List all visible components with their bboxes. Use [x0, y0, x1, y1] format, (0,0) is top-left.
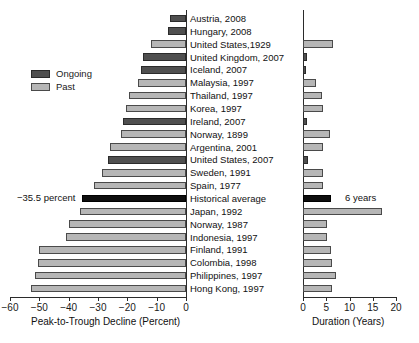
chart-figure: Austria, 2008Hungary, 2008United States,… — [0, 0, 419, 343]
figure-caption — [55, 333, 415, 343]
decline-bar — [138, 79, 186, 87]
duration-bar — [303, 285, 332, 293]
axis-tick — [396, 297, 397, 301]
duration-bar — [303, 169, 323, 177]
category-label: Iceland, 2007 — [190, 64, 247, 75]
duration-bar — [303, 182, 323, 190]
decline-bar — [168, 27, 186, 35]
axis-tick-label: −40 — [60, 302, 77, 313]
category-label: Thailand, 1997 — [190, 90, 253, 101]
axis-tick-label: 0 — [300, 302, 306, 313]
category-label: Hong Kong, 1997 — [190, 283, 264, 294]
decline-axis-title: Peak-to-Trough Decline (Percent) — [31, 316, 180, 328]
legend-item-past: Past — [31, 81, 92, 92]
duration-bar — [303, 92, 322, 100]
axis-tick — [186, 297, 187, 301]
legend-item-ongoing: Ongoing — [31, 68, 92, 79]
duration-bar — [303, 53, 307, 61]
axis-tick-label: −10 — [148, 302, 165, 313]
axis-tick — [303, 297, 304, 301]
axis-tick-label: −20 — [119, 302, 136, 313]
duration-bar — [303, 143, 323, 151]
category-label: Norway, 1987 — [190, 219, 248, 230]
decline-bar — [151, 40, 186, 48]
category-label: United Kingdom, 2007 — [190, 52, 284, 63]
decline-bar — [69, 220, 186, 228]
category-labels: Austria, 2008Hungary, 2008United States,… — [190, 12, 302, 295]
duration-bar — [303, 246, 331, 254]
axis-tick-label: 15 — [367, 302, 378, 313]
axis-tick-label: 20 — [390, 302, 401, 313]
decline-bar — [108, 156, 186, 164]
axis-tick-label: 10 — [344, 302, 355, 313]
duration-bar — [303, 259, 332, 267]
duration-axis-title: Duration (Years) — [312, 316, 384, 328]
decline-bar — [38, 259, 186, 267]
decline-bar — [170, 15, 186, 23]
legend-label-ongoing: Ongoing — [56, 69, 92, 79]
decline-bar — [31, 285, 186, 293]
legend-swatch-past-icon — [31, 83, 50, 91]
decline-bar — [39, 246, 186, 254]
axis-tick — [326, 297, 327, 301]
decline-plot-area — [10, 12, 186, 295]
axis-tick — [350, 297, 351, 301]
category-label: Austria, 2008 — [190, 13, 246, 24]
legend-swatch-ongoing-icon — [31, 70, 50, 78]
category-label: United States, 2007 — [190, 154, 273, 165]
axis-tick-label: 0 — [183, 302, 189, 313]
category-label: Argentina, 2001 — [190, 142, 257, 153]
category-label: Spain, 1977 — [190, 180, 241, 191]
duration-bar — [303, 233, 327, 241]
decline-bar — [129, 92, 186, 100]
decline-bar — [126, 105, 186, 113]
category-label: Ireland, 2007 — [190, 116, 245, 127]
annotation-historical-average-duration: 6 years — [345, 192, 376, 203]
decline-bar — [94, 182, 186, 190]
duration-bar — [303, 220, 327, 228]
duration-bar — [303, 40, 333, 48]
axis-tick — [373, 297, 374, 301]
axis-tick — [98, 297, 99, 301]
axis-tick — [39, 297, 40, 301]
decline-bar — [82, 195, 186, 203]
decline-bar — [141, 66, 186, 74]
duration-bar — [303, 105, 323, 113]
axis-tick — [10, 297, 11, 301]
axis-tick — [69, 297, 70, 301]
category-label: Historical average — [190, 193, 266, 204]
duration-bars — [303, 12, 396, 295]
duration-bar — [303, 156, 308, 164]
annotation-historical-average-decline: −35.5 percent — [17, 192, 75, 203]
decline-bar — [80, 208, 186, 216]
axis-tick-label: −30 — [90, 302, 107, 313]
duration-bar — [303, 272, 336, 280]
decline-bar — [102, 169, 186, 177]
axis-tick — [157, 297, 158, 301]
axis-tick-label: −50 — [31, 302, 48, 313]
category-label: United States,1929 — [190, 39, 271, 50]
category-label: Japan, 1992 — [190, 206, 242, 217]
duration-bar — [303, 195, 331, 203]
category-label: Indonesia, 1997 — [190, 232, 258, 243]
category-label: Hungary, 2008 — [190, 26, 252, 37]
decline-bar — [121, 130, 186, 138]
decline-bar — [123, 118, 186, 126]
legend-label-past: Past — [56, 82, 75, 92]
category-label: Korea, 1997 — [190, 103, 242, 114]
decline-bar — [143, 53, 186, 61]
decline-bar — [66, 233, 186, 241]
axis-tick-label: −60 — [2, 302, 19, 313]
axis-tick — [127, 297, 128, 301]
decline-bar — [35, 272, 186, 280]
category-label: Philippines, 1997 — [190, 270, 262, 281]
decline-bar — [110, 143, 186, 151]
legend: Ongoing Past — [31, 68, 92, 94]
duration-bar — [303, 66, 306, 74]
decline-zero-axis-line — [186, 10, 187, 297]
duration-bar — [303, 130, 330, 138]
duration-bar — [303, 79, 316, 87]
category-label: Colombia, 1998 — [190, 257, 257, 268]
category-label: Malaysia, 1997 — [190, 77, 254, 88]
duration-bar — [303, 208, 382, 216]
